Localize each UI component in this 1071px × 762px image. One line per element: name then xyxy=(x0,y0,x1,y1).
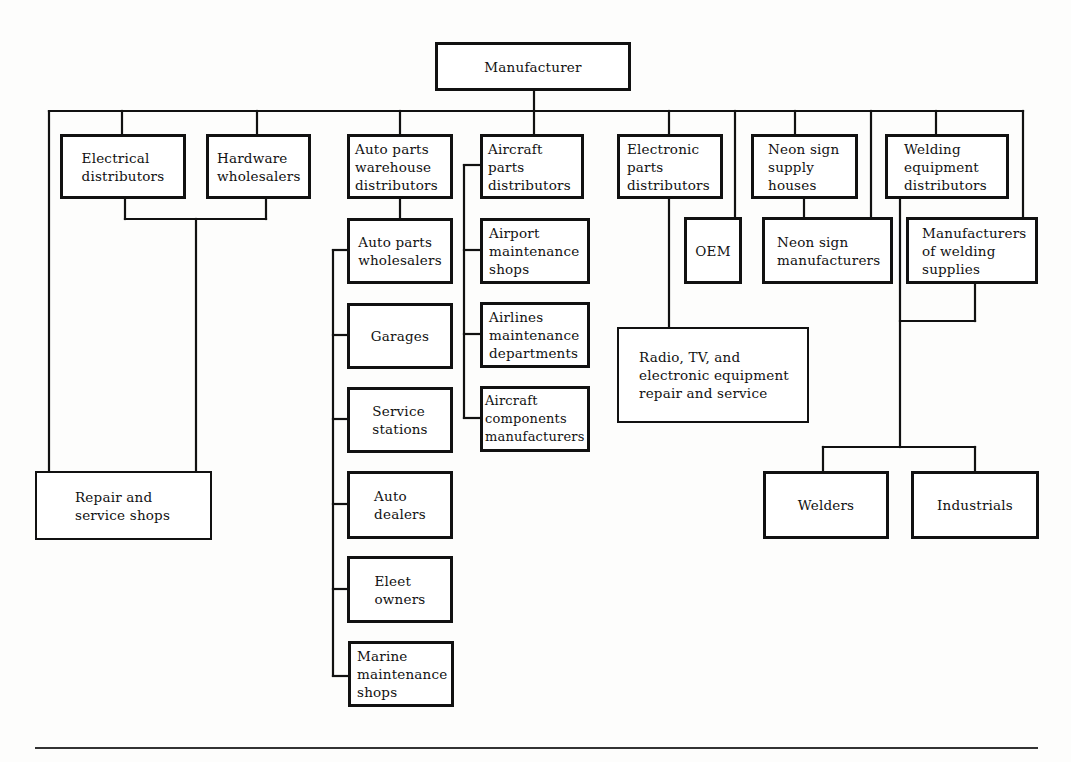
node-label: Service stations xyxy=(372,402,428,438)
node-auto-dealers: Auto dealers xyxy=(347,471,453,539)
node-welders: Welders xyxy=(763,471,889,539)
node-label: Hardware wholesalers xyxy=(217,149,301,185)
node-label: Welding equipment distributors xyxy=(904,140,987,194)
node-auto-parts-warehouse-distributors: Auto parts warehouse distributors xyxy=(347,134,453,199)
node-neon-sign-supply-houses: Neon sign supply houses xyxy=(751,134,858,199)
bottom-rule-divider xyxy=(35,747,1038,749)
node-airport-maintenance-shops: Airport maintenance shops xyxy=(480,218,590,284)
node-aircraft-components-manufacturers: Aircraft components manufacturers xyxy=(480,386,590,452)
node-manufacturer: Manufacturer xyxy=(435,42,631,91)
node-label: Welders xyxy=(798,496,855,514)
node-label: Garages xyxy=(371,327,429,345)
node-welding-equipment-distributors: Welding equipment distributors xyxy=(885,134,1009,199)
node-fleet-owners: Eleet owners xyxy=(347,556,453,623)
node-marine-maintenance-shops: Marine maintenance shops xyxy=(348,641,454,707)
node-auto-parts-wholesalers: Auto parts wholesalers xyxy=(347,218,453,284)
node-label: Neon sign manufacturers xyxy=(777,233,880,269)
node-manufacturers-of-welding-supplies: Manufacturers of welding supplies xyxy=(906,217,1038,284)
node-label: Manufacturer xyxy=(484,58,581,76)
node-label: Eleet owners xyxy=(375,572,426,608)
node-service-stations: Service stations xyxy=(347,387,453,453)
node-electrical-distributors: Electrical distributors xyxy=(60,134,186,199)
node-label: OEM xyxy=(695,242,730,260)
node-repair-and-service-shops: Repair and service shops xyxy=(35,471,212,540)
node-label: Airlines maintenance departments xyxy=(489,308,579,362)
node-industrials: Industrials xyxy=(911,471,1039,539)
node-label: Radio, TV, and electronic equipment repa… xyxy=(639,348,789,402)
node-label: Aircraft parts distributors xyxy=(488,140,571,194)
node-hardware-wholesalers: Hardware wholesalers xyxy=(206,134,311,199)
connector-lines xyxy=(0,0,1071,762)
node-garages: Garages xyxy=(347,303,453,369)
node-label: Auto parts warehouse distributors xyxy=(355,140,438,194)
node-label: Aircraft components manufacturers xyxy=(485,392,585,446)
node-label: Manufacturers of welding supplies xyxy=(922,224,1026,278)
node-label: Marine maintenance shops xyxy=(357,647,447,701)
node-radio-tv-repair: Radio, TV, and electronic equipment repa… xyxy=(617,327,809,423)
node-label: Industrials xyxy=(937,496,1013,514)
node-label: Repair and service shops xyxy=(75,488,170,524)
node-label: Airport maintenance shops xyxy=(489,224,579,278)
node-airlines-maintenance-departments: Airlines maintenance departments xyxy=(480,302,590,368)
node-label: Auto dealers xyxy=(374,487,426,523)
node-label: Neon sign supply houses xyxy=(768,140,839,194)
node-electronic-parts-distributors: Electronic parts distributors xyxy=(617,134,723,199)
node-label: Electrical distributors xyxy=(82,149,165,185)
node-oem: OEM xyxy=(684,217,742,284)
node-label: Electronic parts distributors xyxy=(627,140,710,194)
node-neon-sign-manufacturers: Neon sign manufacturers xyxy=(762,217,893,284)
node-label: Auto parts wholesalers xyxy=(358,233,442,269)
node-aircraft-parts-distributors: Aircraft parts distributors xyxy=(480,134,584,199)
